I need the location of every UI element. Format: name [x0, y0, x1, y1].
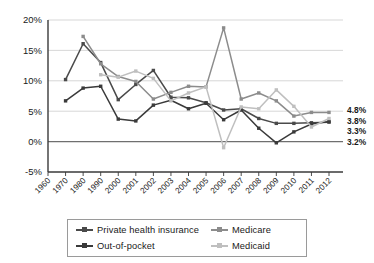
- data-point-marker: [257, 117, 260, 120]
- data-point-marker: [257, 91, 260, 94]
- data-point-marker: [204, 85, 207, 88]
- data-point-marker: [275, 88, 278, 91]
- data-point-marker: [99, 73, 102, 76]
- legend-item[interactable]: Medicare: [211, 225, 316, 235]
- data-point-marker: [222, 118, 225, 121]
- data-point-marker: [187, 107, 190, 110]
- data-point-marker: [327, 111, 330, 114]
- data-point-marker: [257, 127, 260, 130]
- series-end-value-label: 3.3%: [347, 126, 367, 136]
- x-tick-label: 2003: [156, 176, 176, 196]
- growth-rate-line-chart: -5%0%5%10%15%20% 19601970198019902000200…: [0, 0, 374, 263]
- data-point-marker: [134, 69, 137, 72]
- legend-swatch-icon: [76, 226, 93, 234]
- data-point-marker: [327, 117, 330, 120]
- legend-label: Out-of-pocket: [97, 241, 155, 251]
- legend-label: Medicaid: [232, 241, 270, 251]
- data-point-marker: [187, 85, 190, 88]
- data-point-marker: [81, 42, 84, 45]
- series-end-value-label: 4.8%: [347, 105, 367, 115]
- data-point-marker: [292, 105, 295, 108]
- data-point-marker: [117, 98, 120, 101]
- x-tick-label: 2000: [103, 176, 123, 196]
- data-point-marker: [275, 141, 278, 144]
- data-point-marker: [169, 91, 172, 94]
- data-point-marker: [117, 75, 120, 78]
- legend-swatch-icon: [211, 226, 228, 234]
- y-tick-label: 15%: [23, 45, 43, 56]
- data-point-marker: [275, 99, 278, 102]
- x-tick-label: 2004: [174, 176, 194, 196]
- x-tick-label: 2008: [244, 176, 264, 196]
- data-point-marker: [239, 105, 242, 108]
- data-point-marker: [187, 96, 190, 99]
- x-axis-tick-labels: 1960197019801990200020012002200320042005…: [33, 176, 334, 196]
- data-point-marker: [169, 99, 172, 102]
- data-point-marker: [310, 125, 313, 128]
- x-tick-label: 2009: [261, 176, 281, 196]
- data-point-marker: [222, 26, 225, 29]
- legend-item[interactable]: Medicaid: [211, 241, 316, 251]
- data-point-marker: [257, 107, 260, 110]
- x-tick-label: 2001: [121, 176, 141, 196]
- data-point-marker: [222, 146, 225, 149]
- x-tick-label: 1960: [33, 176, 53, 196]
- data-point-marker: [117, 117, 120, 120]
- data-point-marker: [292, 114, 295, 117]
- y-tick-label: -5%: [25, 166, 42, 177]
- data-point-marker: [222, 108, 225, 111]
- data-point-marker: [152, 77, 155, 80]
- y-tick-label: 20%: [23, 14, 43, 25]
- data-point-marker: [152, 69, 155, 72]
- data-point-marker: [327, 120, 330, 123]
- chart-legend: Private health insuranceMedicareOut-of-p…: [67, 219, 307, 257]
- x-axis: [48, 172, 343, 176]
- legend-label: Medicare: [232, 225, 271, 235]
- x-tick-label: 2002: [139, 176, 159, 196]
- data-point-marker: [134, 80, 137, 83]
- x-tick-label: 1980: [68, 176, 88, 196]
- data-point-marker: [99, 62, 102, 65]
- data-point-marker: [275, 122, 278, 125]
- series-lines: [64, 26, 331, 149]
- y-axis-tick-labels: -5%0%5%10%15%20%: [23, 14, 43, 177]
- data-point-marker: [292, 130, 295, 133]
- series-line: [66, 86, 329, 143]
- x-tick-label: 1970: [51, 176, 71, 196]
- series-end-labels: 4.8%3.8%3.3%3.2%: [347, 105, 367, 147]
- legend-item[interactable]: Private health insurance: [76, 225, 211, 235]
- data-point-marker: [99, 85, 102, 88]
- data-point-marker: [204, 102, 207, 105]
- series-end-value-label: 3.2%: [347, 137, 367, 147]
- series-end-value-label: 3.8%: [347, 116, 367, 126]
- x-tick-label: 2006: [209, 176, 229, 196]
- series-2: [64, 85, 331, 145]
- legend-swatch-icon: [211, 242, 228, 250]
- legend-item[interactable]: Out-of-pocket: [76, 241, 211, 251]
- data-point-marker: [152, 97, 155, 100]
- x-tick-label: 2010: [279, 176, 299, 196]
- data-point-marker: [152, 103, 155, 106]
- data-point-marker: [134, 119, 137, 122]
- y-tick-label: 10%: [23, 75, 43, 86]
- data-point-marker: [187, 91, 190, 94]
- data-point-marker: [239, 97, 242, 100]
- legend-label: Private health insurance: [97, 225, 199, 235]
- x-tick-label: 1990: [86, 176, 106, 196]
- y-tick-label: 0%: [28, 136, 42, 147]
- x-tick-label: 2007: [226, 176, 246, 196]
- data-point-marker: [64, 78, 67, 81]
- data-point-marker: [310, 111, 313, 114]
- data-point-marker: [292, 122, 295, 125]
- data-point-marker: [81, 35, 84, 38]
- y-tick-label: 5%: [28, 106, 42, 117]
- x-tick-label: 2011: [297, 176, 316, 195]
- x-tick-label: 2012: [314, 176, 334, 196]
- data-point-marker: [81, 86, 84, 89]
- data-point-marker: [64, 99, 67, 102]
- legend-swatch-icon: [76, 242, 93, 250]
- x-tick-label: 2005: [191, 176, 211, 196]
